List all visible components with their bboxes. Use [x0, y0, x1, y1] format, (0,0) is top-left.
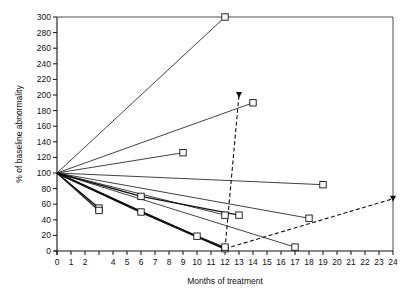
y-tick-label: 120 [37, 152, 51, 162]
y-tick-label: 60 [42, 199, 52, 209]
x-tick-label: 2 [83, 257, 88, 267]
x-tick-label: 21 [346, 257, 356, 267]
square-marker [180, 150, 186, 156]
x-tick-label: 9 [181, 257, 186, 267]
series-line-patient-2 [57, 103, 253, 173]
square-marker [236, 212, 242, 218]
y-tick-label: 40 [42, 215, 52, 225]
y-axis: 0204060801001201401601802002202402602803… [37, 12, 57, 256]
data-markers [96, 14, 396, 252]
x-axis-title: Months of treatment [187, 276, 263, 286]
square-marker [222, 212, 228, 218]
x-tick-label: 15 [262, 257, 272, 267]
x-tick-label: 24 [388, 257, 398, 267]
x-tick-label: 18 [304, 257, 314, 267]
y-tick-label: 20 [42, 230, 52, 240]
y-tick-label: 140 [37, 137, 51, 147]
series-line-relapse-2 [225, 199, 393, 249]
x-tick-label: 17 [290, 257, 300, 267]
plot-frame [54, 17, 393, 255]
y-tick-label: 80 [42, 184, 52, 194]
x-tick-label: 4 [111, 257, 116, 267]
series-line-relapse-1 [225, 95, 239, 249]
square-marker [138, 209, 144, 215]
square-marker [96, 207, 102, 213]
x-tick-label: 13 [234, 257, 244, 267]
x-tick-label: 7 [153, 257, 158, 267]
square-marker [222, 14, 228, 20]
triangle-marker [236, 92, 242, 98]
series-line-patient-6 [57, 173, 295, 247]
x-tick-label: 6 [139, 257, 144, 267]
y-tick-label: 260 [37, 43, 51, 53]
y-tick-label: 280 [37, 28, 51, 38]
chart: 0204060801001201401601802002202402602803… [0, 0, 411, 297]
x-tick-label: 11 [207, 257, 216, 267]
square-marker [138, 193, 144, 199]
y-tick-label: 100 [37, 168, 51, 178]
square-marker [306, 215, 312, 221]
x-tick-label: 10 [192, 257, 202, 267]
x-tick-label: 5 [125, 257, 130, 267]
x-tick-label: 8 [167, 257, 172, 267]
x-tick-label: 22 [360, 257, 370, 267]
y-tick-label: 300 [37, 12, 51, 22]
square-marker [250, 100, 256, 106]
series-line-patient-7 [57, 173, 239, 215]
x-tick-label: 0 [55, 257, 60, 267]
triangle-marker [390, 196, 396, 202]
x-tick-label: 1 [69, 257, 74, 267]
x-tick-label: 19 [318, 257, 328, 267]
series-line-patient-1 [57, 17, 225, 173]
y-tick-label: 160 [37, 121, 51, 131]
y-tick-label: 200 [37, 90, 51, 100]
x-tick-label: 20 [332, 257, 342, 267]
x-tick-label: 16 [276, 257, 286, 267]
y-tick-label: 220 [37, 74, 51, 84]
y-tick-label: 240 [37, 59, 51, 69]
x-tick-label: 23 [374, 257, 384, 267]
y-tick-label: 0 [46, 246, 51, 256]
square-marker [222, 244, 228, 250]
x-tick-label: 14 [248, 257, 258, 267]
x-axis: 012456789101112131415161718192021222324 [55, 251, 398, 267]
y-tick-label: 180 [37, 106, 51, 116]
x-tick-label: 12 [220, 257, 230, 267]
square-marker [320, 182, 326, 188]
series-line-patient-5 [57, 173, 309, 218]
square-marker [194, 233, 200, 239]
y-axis-title: % of baseline abnormality [14, 85, 24, 183]
square-marker [292, 244, 298, 250]
